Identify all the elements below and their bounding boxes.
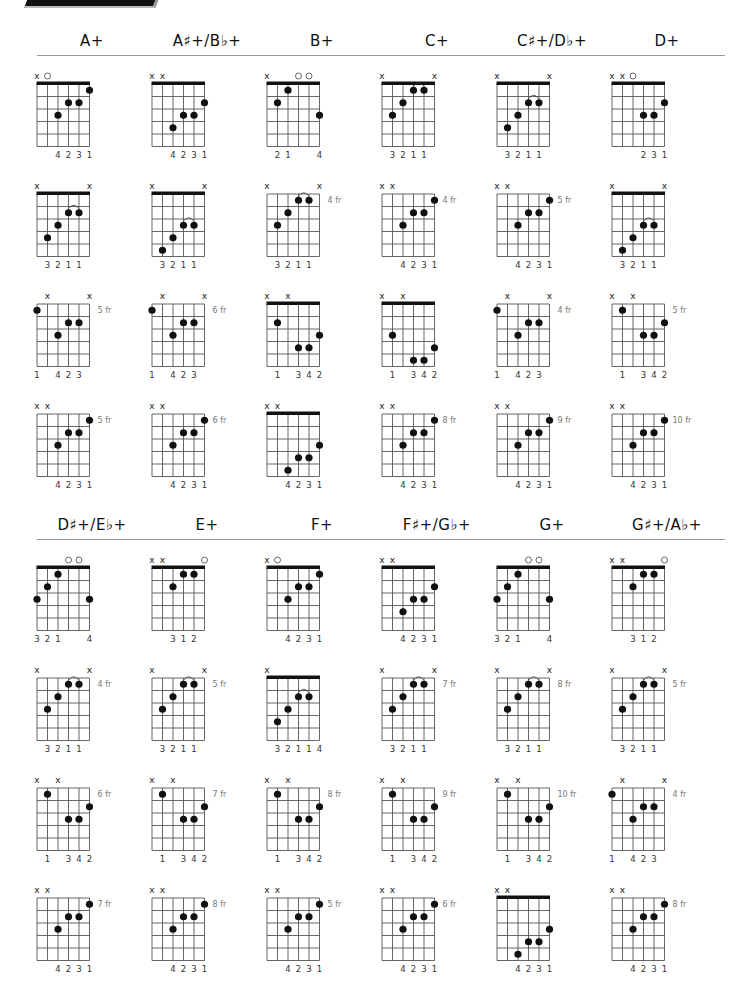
finger-number: 4: [55, 964, 60, 974]
fret-position-label: 8 fr: [558, 680, 572, 689]
finger-number: 4: [170, 370, 175, 380]
muted-string-icon: x: [202, 665, 208, 675]
fret-position-label: 6 fr: [98, 790, 112, 799]
finger-dot-icon: [399, 99, 406, 106]
finger-dot-icon: [180, 681, 187, 688]
finger-number: 4: [285, 480, 290, 490]
finger-dot-icon: [180, 429, 187, 436]
finger-number: 1: [87, 480, 92, 490]
fretboard-grid: xx42318 fr: [152, 884, 262, 984]
finger-dot-icon: [608, 791, 615, 798]
fret-position-label: 4 fr: [673, 790, 687, 799]
finger-number: 2: [296, 480, 301, 490]
barre-arc-icon: [644, 218, 655, 222]
muted-string-icon: x: [34, 885, 40, 895]
finger-number: 2: [202, 854, 207, 864]
finger-number: 1: [651, 744, 656, 754]
finger-number: 1: [181, 744, 186, 754]
finger-number: 1: [34, 370, 39, 380]
finger-dot-icon: [661, 417, 668, 424]
fret-position-label: 9 fr: [443, 790, 457, 799]
chord-diagram: xx42316 fr: [152, 400, 262, 500]
finger-dot-icon: [420, 429, 427, 436]
finger-dot-icon: [190, 681, 197, 688]
finger-dot-icon: [389, 706, 396, 713]
finger-dot-icon: [431, 417, 438, 424]
finger-number: 2: [547, 854, 552, 864]
barre-arc-icon: [69, 677, 80, 681]
finger-number: 3: [536, 370, 541, 380]
finger-number: 2: [296, 634, 301, 644]
finger-number: 1: [202, 480, 207, 490]
muted-string-icon: x: [160, 291, 166, 301]
chord-diagram: xx1342: [267, 290, 377, 390]
finger-dot-icon: [180, 319, 187, 326]
muted-string-icon: x: [264, 71, 270, 81]
muted-string-icon: x: [149, 665, 155, 675]
nut: [612, 192, 666, 196]
finger-dot-icon: [640, 332, 647, 339]
fret-position-label: 9 fr: [558, 416, 572, 425]
finger-number: 4: [630, 480, 635, 490]
finger-number: 1: [66, 260, 71, 270]
muted-string-icon: x: [160, 885, 166, 895]
muted-string-icon: x: [390, 555, 396, 565]
finger-number: 2: [181, 150, 186, 160]
finger-dot-icon: [619, 307, 626, 314]
finger-dot-icon: [33, 596, 40, 603]
finger-dot-icon: [180, 222, 187, 229]
finger-dot-icon: [274, 222, 281, 229]
barre-arc-icon: [184, 218, 195, 222]
fretboard-grid: xx32115 fr: [152, 664, 262, 764]
muted-string-icon: x: [149, 71, 155, 81]
header-divider: [37, 539, 725, 540]
fretboard-grid: xx14234 fr: [612, 774, 722, 874]
finger-dot-icon: [169, 442, 176, 449]
finger-dot-icon: [284, 87, 291, 94]
finger-number: 3: [275, 260, 280, 270]
finger-dot-icon: [44, 706, 51, 713]
finger-number: 3: [494, 634, 499, 644]
finger-dot-icon: [65, 99, 72, 106]
nut: [37, 566, 91, 570]
muted-string-icon: x: [390, 885, 396, 895]
chord-diagram: xx13425 fr: [612, 290, 722, 390]
finger-number: 2: [432, 854, 437, 864]
finger-number: 3: [630, 634, 635, 644]
nut: [152, 82, 206, 86]
chord-name: D+: [612, 32, 722, 50]
finger-number: 1: [296, 260, 301, 270]
finger-dot-icon: [169, 332, 176, 339]
finger-dot-icon: [54, 222, 61, 229]
muted-string-icon: x: [149, 181, 155, 191]
chord-diagram: xx4231: [267, 400, 377, 500]
finger-dot-icon: [169, 926, 176, 933]
muted-string-icon: x: [55, 775, 61, 785]
finger-number: 1: [317, 480, 322, 490]
muted-string-icon: x: [379, 401, 385, 411]
muted-string-icon: x: [160, 555, 166, 565]
fretboard-grid: xx42316 fr: [152, 400, 262, 500]
fretboard-grid: xx13426 fr: [37, 774, 147, 874]
finger-number: 4: [651, 370, 656, 380]
finger-dot-icon: [295, 816, 302, 823]
finger-dot-icon: [410, 681, 417, 688]
finger-number: 1: [202, 964, 207, 974]
fretboard-grid: xx4231: [152, 70, 262, 170]
fret-position-label: 10 fr: [673, 416, 693, 425]
finger-number: 1: [191, 744, 196, 754]
finger-number: 1: [641, 260, 646, 270]
nut: [382, 302, 436, 306]
finger-dot-icon: [410, 913, 417, 920]
chord-name: C♯+/D♭+: [497, 32, 607, 50]
finger-dot-icon: [504, 706, 511, 713]
finger-number: 2: [641, 150, 646, 160]
finger-dot-icon: [535, 319, 542, 326]
fretboard-grid: xx231: [612, 70, 722, 170]
finger-number: 1: [296, 744, 301, 754]
fret-position-label: 5 fr: [98, 306, 112, 315]
finger-dot-icon: [201, 901, 208, 908]
chord-name: E+: [152, 516, 262, 534]
muted-string-icon: x: [264, 291, 270, 301]
fretboard-grid: xx42315 fr: [267, 884, 377, 984]
